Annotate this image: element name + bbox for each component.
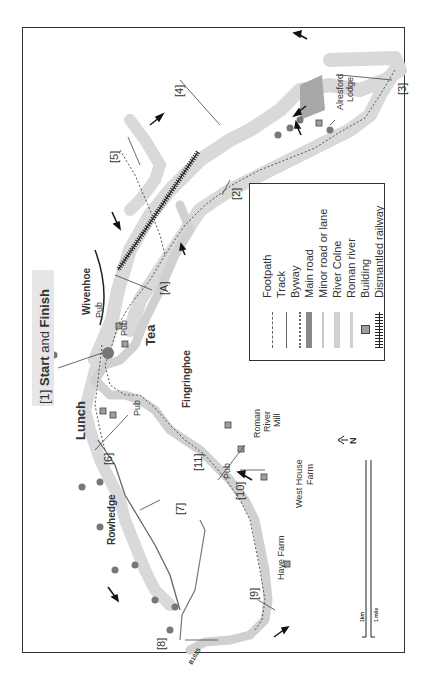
- label-pub-lunch: Pub: [132, 400, 142, 416]
- svg-text:Farm: Farm: [305, 464, 315, 485]
- label-pub-wivenhoe: Pub: [94, 302, 104, 318]
- label-waypoint-3: [3]: [396, 83, 408, 95]
- map-labels: [1] Start and Finish Wivenhoe Pub Pub Te…: [32, 74, 408, 666]
- building-symbol-icon: [361, 325, 370, 334]
- svg-text:N: N: [348, 438, 358, 445]
- label-fingringhoe: Fingringhoe: [181, 350, 192, 408]
- start-finish-label: [1] Start and Finish: [37, 289, 52, 404]
- label-waypoint-9: [9]: [248, 588, 260, 600]
- north-arrow: N: [338, 436, 358, 444]
- minor-road-b1025: [180, 520, 205, 640]
- track-symbol-icon: [286, 312, 287, 348]
- label-waypoint-8: [8]: [155, 638, 167, 650]
- svg-text:1 mile: 1 mile: [373, 608, 379, 622]
- legend-item-byway: Byway: [288, 184, 302, 362]
- svg-text:Mill: Mill: [272, 414, 282, 428]
- svg-text:River: River: [262, 411, 272, 432]
- footpath-symbol-icon: [272, 312, 273, 348]
- label-haye-farm: Haye Farm: [276, 535, 286, 580]
- legend-item-main-road: Main road: [302, 184, 316, 362]
- label-pub-fingringhoe: Pub: [222, 463, 232, 479]
- minor-road-symbol-icon: [322, 312, 324, 348]
- label-pub-tea: Pub: [119, 320, 129, 336]
- label-alresford-lodge: Alresford: [335, 74, 345, 110]
- label-waypoint-11: [11]: [192, 453, 204, 471]
- river-colne-symbol-icon: [334, 312, 340, 348]
- label-tea: Tea: [143, 324, 158, 346]
- byway-symbol-icon: [299, 312, 301, 348]
- scale-bar: 1km 1 mile: [359, 460, 379, 637]
- svg-text:1km: 1km: [359, 611, 365, 622]
- label-waypoint-5: [5]: [108, 151, 120, 163]
- label-waypoint-7: [7]: [174, 503, 186, 515]
- main-road-symbol-icon: [306, 312, 312, 348]
- label-waypoint-4: [4]: [173, 85, 185, 97]
- legend-item-building: Building: [358, 184, 372, 362]
- label-lunch: Lunch: [73, 401, 88, 440]
- roman-river-symbol-icon: [350, 312, 353, 348]
- legend-item-roman-river: Roman river: [344, 184, 358, 362]
- legend-item-minor-road: Minor road or lane: [316, 184, 330, 362]
- legend-item-track: Track: [274, 184, 288, 362]
- label-roman-river-mill: Roman: [252, 409, 262, 438]
- start-finish-marker: [102, 347, 114, 359]
- legend-item-river-colne: River Colne: [330, 184, 344, 362]
- label-waypoint-a: [A]: [158, 282, 170, 295]
- label-waypoint-6: [6]: [102, 453, 114, 465]
- label-waypoint-10: [10]: [234, 482, 246, 500]
- label-rowhedge: Rowhedge: [106, 494, 117, 545]
- label-waypoint-2: [2]: [230, 188, 242, 200]
- svg-text:Lodge: Lodge: [345, 77, 355, 102]
- legend-item-footpath: Footpath: [260, 184, 274, 362]
- label-west-house-farm: West House: [294, 459, 304, 508]
- railway-symbol-icon: [375, 312, 383, 348]
- legend: Footpath Track Byway Main road Minor roa…: [249, 183, 385, 361]
- legend-item-dismantled-railway: Dismantled railway: [372, 184, 386, 362]
- label-wivenhoe: Wivenhoe: [81, 267, 92, 315]
